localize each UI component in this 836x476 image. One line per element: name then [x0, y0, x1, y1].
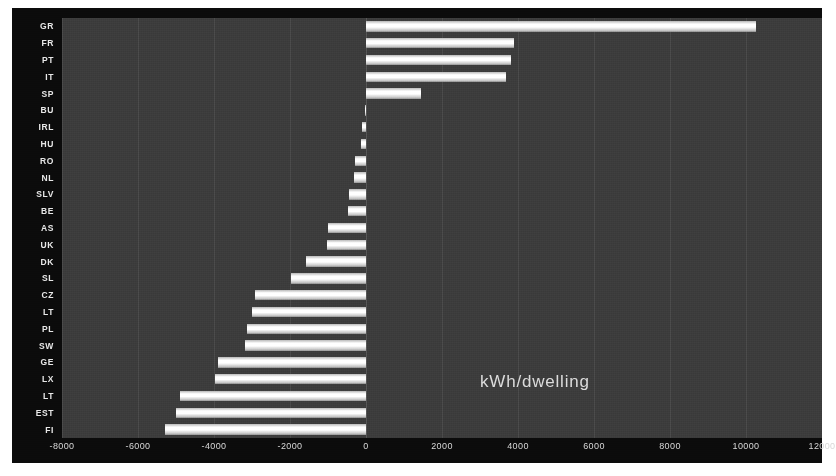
bar-row [62, 337, 822, 354]
bar-row [62, 203, 822, 220]
chart-canvas: GRFRPTITSPBUIRLHURONLSLVBEASUKDKSLCZLTPL… [12, 8, 822, 463]
bar-row [62, 35, 822, 52]
bar-row [62, 152, 822, 169]
units-annotation: kWh/dwelling [480, 372, 590, 392]
bar-row [62, 421, 822, 438]
bar-it-3 [366, 72, 506, 82]
bar-lx-21 [215, 374, 366, 384]
bar-pt-2 [366, 55, 511, 65]
bar-fr-1 [366, 38, 514, 48]
y-tick-fr-1: FR [41, 39, 54, 48]
bar-row [62, 186, 822, 203]
bar-nl-9 [354, 172, 366, 182]
bar-bu-5 [365, 105, 366, 115]
bar-as-12 [328, 223, 366, 233]
y-tick-lt-17: LT [43, 308, 54, 317]
y-tick-ro-8: RO [40, 157, 54, 166]
bar-row [62, 102, 822, 119]
bar-row [62, 236, 822, 253]
plot-area: kWh/dwelling [62, 18, 822, 438]
x-tick-6: 4000 [507, 441, 529, 451]
y-tick-bu-5: BU [41, 106, 54, 115]
y-tick-nl-9: NL [41, 173, 54, 182]
y-tick-slv-10: SLV [36, 190, 54, 199]
y-tick-lx-21: LX [42, 375, 54, 384]
bar-row [62, 119, 822, 136]
x-tick-4: 0 [363, 441, 368, 451]
x-tick-8: 8000 [659, 441, 681, 451]
bar-row [62, 354, 822, 371]
bar-lt-17 [252, 307, 366, 317]
bar-row [62, 85, 822, 102]
bar-uk-13 [327, 240, 366, 250]
x-tick-0: -8000 [49, 441, 74, 451]
x-tick-9: 10000 [732, 441, 759, 451]
y-tick-dk-14: DK [41, 257, 54, 266]
y-tick-lt-22: LT [43, 392, 54, 401]
y-tick-be-11: BE [41, 207, 54, 216]
bar-slv-10 [349, 189, 366, 199]
bar-gr-0 [366, 21, 756, 31]
bar-sl-15 [291, 273, 366, 283]
x-tick-3: -2000 [277, 441, 302, 451]
y-tick-pt-2: PT [42, 56, 54, 65]
y-tick-ge-20: GE [41, 358, 54, 367]
bar-hu-7 [361, 139, 366, 149]
bar-row [62, 304, 822, 321]
x-axis-tick-labels: -8000-6000-4000-200002000400060008000100… [62, 441, 822, 461]
bar-row [62, 136, 822, 153]
y-tick-as-12: AS [41, 224, 54, 233]
bar-ro-8 [355, 156, 366, 166]
bar-row [62, 220, 822, 237]
y-tick-est-23: EST [36, 409, 54, 418]
y-tick-sp-4: SP [41, 89, 54, 98]
y-tick-gr-0: GR [40, 22, 54, 31]
y-axis-tick-labels: GRFRPTITSPBUIRLHURONLSLVBEASUKDKSLCZLTPL… [12, 18, 60, 438]
bar-row [62, 18, 822, 35]
bar-row [62, 371, 822, 388]
y-tick-irl-6: IRL [39, 123, 55, 132]
bar-be-11 [348, 206, 366, 216]
bar-est-23 [176, 408, 366, 418]
y-tick-hu-7: HU [41, 140, 54, 149]
bar-fi-24 [165, 424, 366, 434]
y-tick-fi-24: FI [45, 425, 54, 434]
y-tick-cz-16: CZ [41, 291, 54, 300]
x-tick-10: 12000 [808, 441, 835, 451]
bar-cz-16 [255, 290, 366, 300]
y-tick-pl-18: PL [42, 325, 54, 334]
bar-row [62, 388, 822, 405]
bar-row [62, 169, 822, 186]
bar-row [62, 287, 822, 304]
x-tick-7: 6000 [583, 441, 605, 451]
bar-ge-20 [218, 357, 366, 367]
x-tick-2: -4000 [201, 441, 226, 451]
y-tick-uk-13: UK [41, 241, 54, 250]
y-tick-it-3: IT [45, 73, 54, 82]
bar-row [62, 52, 822, 69]
x-tick-5: 2000 [431, 441, 453, 451]
bar-pl-18 [247, 324, 366, 334]
y-tick-sw-19: SW [39, 341, 54, 350]
y-tick-sl-15: SL [42, 274, 54, 283]
bar-sw-19 [245, 340, 366, 350]
bar-irl-6 [362, 122, 366, 132]
bar-sp-4 [366, 88, 421, 98]
bar-row [62, 270, 822, 287]
bar-row [62, 68, 822, 85]
bar-row [62, 404, 822, 421]
x-tick-1: -6000 [125, 441, 150, 451]
bar-dk-14 [306, 256, 366, 266]
bar-lt-22 [180, 391, 366, 401]
bar-row [62, 253, 822, 270]
bar-row [62, 320, 822, 337]
